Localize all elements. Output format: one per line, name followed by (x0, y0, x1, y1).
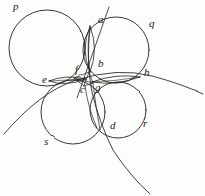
point-label-c: c (80, 84, 85, 95)
circle-p (9, 10, 85, 86)
curve-label-r: r (143, 118, 147, 129)
point-label-d: d (110, 120, 116, 131)
point-label-e: e (42, 74, 47, 85)
point-label-a: a (98, 14, 104, 25)
point-label-h: h (144, 67, 150, 78)
curve-label-q: q (149, 18, 155, 29)
circle-q (83, 17, 149, 83)
geometry-canvas (0, 0, 205, 196)
arc-from-d-descending (88, 28, 150, 194)
curve-label-p: p (13, 1, 19, 12)
curve-label-s: s (44, 136, 48, 147)
point-label-g: g (95, 82, 101, 93)
point-label-b: b (98, 58, 104, 69)
point-label-f: f (75, 64, 78, 75)
geometric-figure: a b c d e f g h p q r s (0, 0, 205, 196)
